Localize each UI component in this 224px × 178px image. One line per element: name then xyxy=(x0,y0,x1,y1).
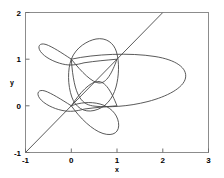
chart-figure: -1 0 1 2 -1 0 1 2 3 x y xyxy=(0,0,224,178)
x-tick-label-0: 0 xyxy=(69,156,74,165)
y-tick-label-neg1: -1 xyxy=(14,149,22,158)
x-tick-label-2: 2 xyxy=(161,156,166,165)
y-tick-label-2: 2 xyxy=(17,9,22,18)
plot-canvas: -1 0 1 2 -1 0 1 2 3 x y xyxy=(0,0,224,178)
y-tick-label-0: 0 xyxy=(17,102,22,111)
x-axis-title: x xyxy=(115,166,119,173)
x-tick-label-1: 1 xyxy=(115,156,120,165)
y-axis-title: y xyxy=(10,79,14,87)
x-tick-label-neg1: -1 xyxy=(22,156,30,165)
x-tick-label-3: 3 xyxy=(206,156,211,165)
y-tick-label-1: 1 xyxy=(17,55,22,64)
